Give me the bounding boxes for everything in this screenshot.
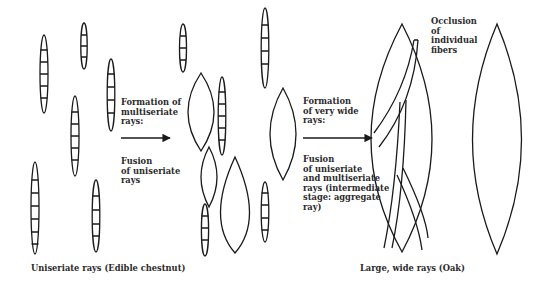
multiseriate-ray	[221, 157, 250, 253]
transition-2-below-label: Fusion of uniseriate and multiseriate ra…	[303, 155, 389, 213]
label-line: ray)	[303, 203, 389, 213]
uniseriate-rays-group	[31, 23, 115, 254]
label-line: fibers	[431, 46, 477, 56]
uniseriate-ray	[107, 59, 115, 131]
uniseriate-ray	[261, 182, 269, 242]
uniseriate-ray	[201, 204, 208, 256]
large-wide-ray	[473, 24, 522, 254]
label-line: rays:	[303, 116, 359, 126]
aggregate-ray-outline	[371, 24, 432, 252]
caption-large-wide: Large, wide rays (Oak)	[360, 263, 465, 273]
transition-1-below-label: Fusion of uniseriate rays	[121, 157, 180, 186]
uniseriate-ray	[40, 35, 48, 113]
multiseriate-rays-group	[180, 8, 297, 256]
uniseriate-ray	[218, 77, 226, 155]
label-line: rays:	[121, 117, 181, 127]
uniseriate-ray	[92, 180, 100, 252]
uniseriate-ray	[261, 8, 269, 88]
fiber-strand	[374, 40, 418, 147]
uniseriate-ray	[71, 96, 79, 176]
aggregate-ray	[371, 24, 432, 252]
multiseriate-ray	[201, 147, 217, 207]
transition-1-above-label: Formation of multiseriate rays:	[121, 98, 181, 127]
multiseriate-ray	[270, 88, 296, 180]
uniseriate-ray	[81, 23, 87, 69]
occlusion-annotation: Occlusion of individual fibers	[431, 17, 477, 55]
multiseriate-ray	[188, 73, 214, 151]
caption-uniseriate: Uniseriate rays (Edible chestnut)	[31, 263, 185, 273]
transition-2-above-label: Formation of very wide rays:	[303, 97, 359, 126]
uniseriate-ray	[180, 24, 187, 72]
label-line: rays	[121, 176, 180, 186]
uniseriate-ray	[31, 162, 39, 254]
